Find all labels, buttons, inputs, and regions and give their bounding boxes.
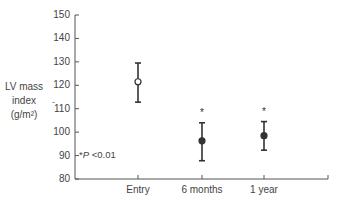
y-tick-label: 130: [40, 56, 70, 67]
y-tick-label: 150: [40, 9, 70, 20]
y-tick-label: 100: [40, 126, 70, 137]
y-label-dash: -: [52, 97, 55, 107]
svg-text:*: *: [200, 107, 204, 118]
data-point: *: [199, 107, 205, 161]
note-rest: <0.01: [89, 149, 116, 160]
x-tick-label: 6 months: [172, 184, 232, 195]
svg-text:*: *: [262, 106, 266, 117]
y-axis-label-line1: LV mass: [0, 80, 48, 94]
significance-note: *P <0.01: [79, 149, 116, 160]
x-tick-label: 1 year: [234, 184, 294, 195]
y-tick-label: 140: [40, 32, 70, 43]
data-points: **: [135, 63, 267, 161]
x-ticks: [138, 175, 264, 179]
y-tick-label: 80: [40, 173, 70, 184]
x-tick-label: Entry: [108, 184, 168, 195]
y-axis-label-line2: index: [0, 94, 48, 108]
data-point: [135, 63, 141, 102]
y-axis-label: LV mass index (g/m²): [0, 80, 48, 122]
data-point: *: [261, 106, 267, 151]
y-axis-label-line3: (g/m²): [0, 108, 48, 122]
y-tick-label: 90: [40, 150, 70, 161]
